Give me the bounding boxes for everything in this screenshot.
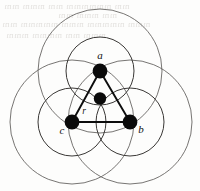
radius-label: r [82, 106, 86, 116]
center-dot-group [94, 92, 106, 104]
geometric-figure: mm mmmmmm mm mmm mmmm mmm mmmmm mmmmm mm… [0, 0, 200, 191]
vertex-dot-a [93, 64, 108, 79]
center-point-dot [94, 92, 106, 104]
vertex-label-b: b [138, 123, 144, 135]
vertex-dot-b [123, 115, 138, 130]
figure-canvas: abcr [0, 0, 200, 191]
vertex-label-a: a [97, 49, 103, 61]
vertex-dot-c [65, 115, 80, 130]
vertex-label-c: c [60, 124, 65, 136]
